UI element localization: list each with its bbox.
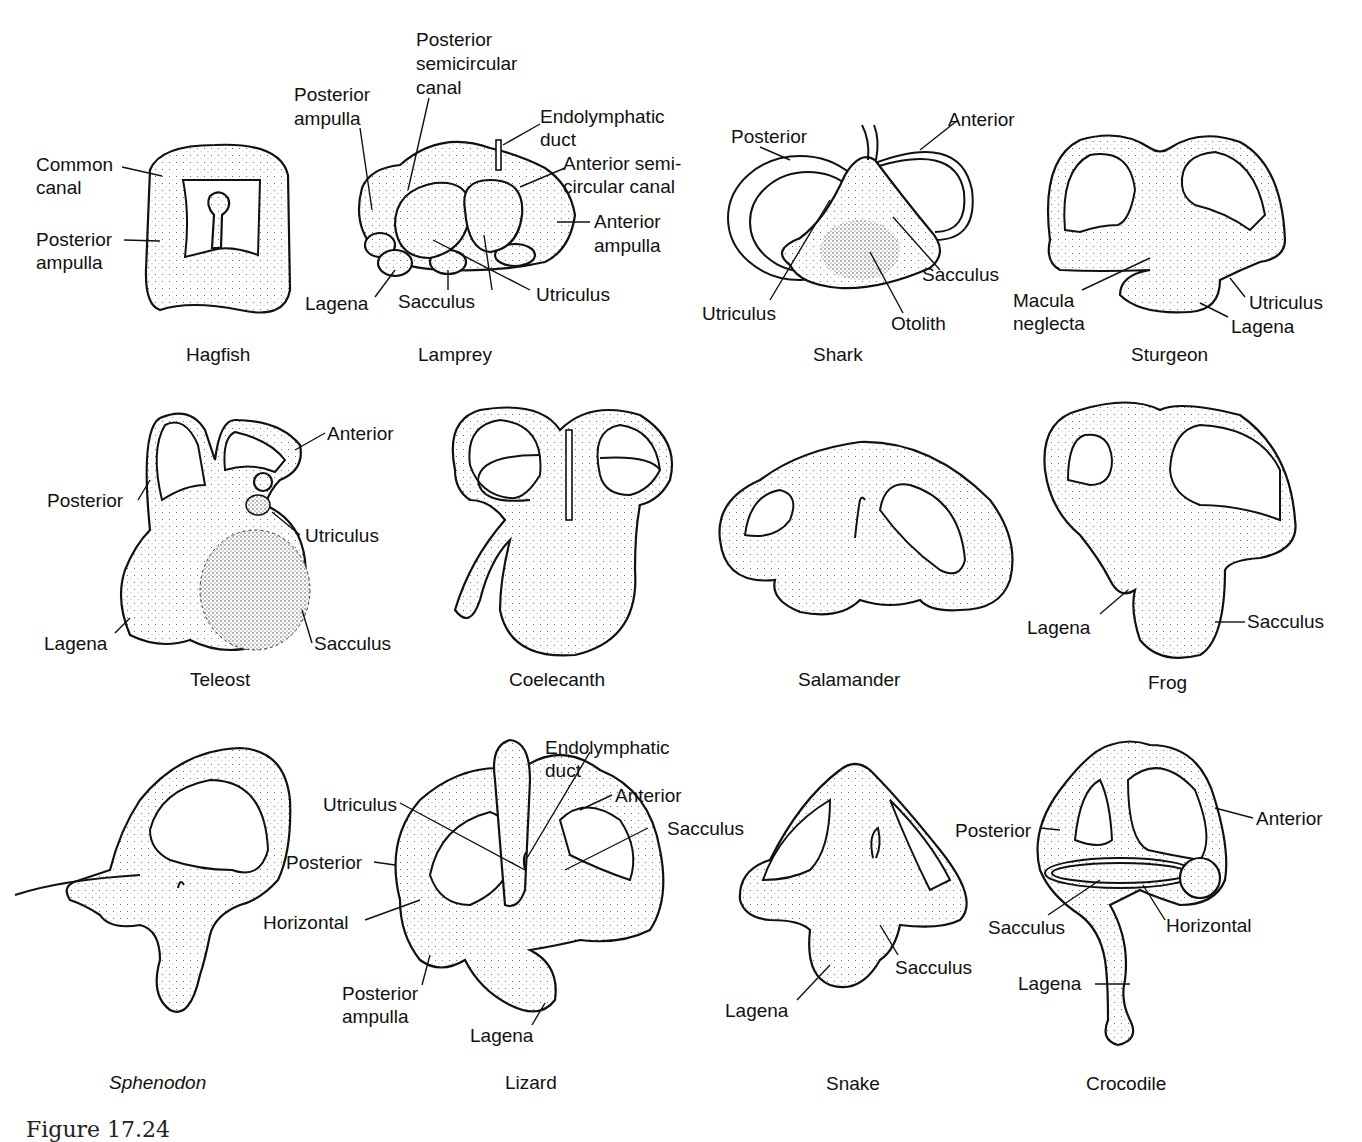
- lamprey-label-utriculus: Utriculus: [536, 284, 610, 306]
- teleost-label-posterior: Posterior: [47, 490, 123, 512]
- lamprey-label-lagena: Lagena: [305, 293, 368, 315]
- snake-label-sacculus: Sacculus: [895, 957, 972, 979]
- crocodile-label-lagena: Lagena: [1018, 973, 1081, 995]
- crocodile-inner-ear: [1038, 742, 1254, 1046]
- shark-label-otolith: Otolith: [891, 313, 946, 335]
- caption-snake: Snake: [826, 1073, 880, 1095]
- sturgeon-inner-ear: [1048, 136, 1285, 318]
- shark-label-anterior: Anterior: [948, 109, 1015, 131]
- frog-label-lagena: Lagena: [1027, 617, 1090, 639]
- figure-number: Figure 17.24: [26, 1117, 170, 1142]
- teleost-label-utriculus: Utriculus: [305, 525, 379, 547]
- caption-sphenodon: Sphenodon: [109, 1072, 206, 1094]
- lamprey-label-sacculus: Sacculus: [398, 291, 475, 313]
- lamprey-label-ed-2: duct: [540, 129, 576, 151]
- lizard-label-sacculus: Sacculus: [667, 818, 744, 840]
- salamander-inner-ear: [720, 442, 1013, 614]
- lizard-label-pa-1: Posterior: [342, 983, 418, 1005]
- hagfish-label-common-canal-2: canal: [36, 177, 81, 199]
- lizard-label-posterior: Posterior: [286, 852, 362, 874]
- lizard-label-pa-2: ampulla: [342, 1006, 409, 1028]
- caption-shark: Shark: [813, 344, 863, 366]
- lizard-label-horizontal: Horizontal: [263, 912, 349, 934]
- crocodile-label-sacculus: Sacculus: [988, 917, 1065, 939]
- shark-label-sacculus: Sacculus: [922, 264, 999, 286]
- lamprey-label-psc-1: Posterior: [416, 29, 492, 51]
- shark-label-utriculus: Utriculus: [702, 303, 776, 325]
- lizard-label-ed-2: duct: [545, 760, 581, 782]
- crocodile-label-horizontal: Horizontal: [1166, 915, 1252, 937]
- lamprey-label-asc-2: circular canal: [563, 176, 675, 198]
- caption-frog: Frog: [1148, 672, 1187, 694]
- hagfish-inner-ear: [122, 145, 290, 313]
- sturgeon-label-macula-1: Macula: [1013, 290, 1074, 312]
- lamprey-label-pa-1: Posterior: [294, 84, 370, 106]
- lizard-label-anterior: Anterior: [615, 785, 682, 807]
- caption-sturgeon: Sturgeon: [1131, 344, 1208, 366]
- caption-lamprey: Lamprey: [418, 344, 492, 366]
- lamprey-label-psc-3: canal: [416, 77, 461, 99]
- teleost-inner-ear: [115, 414, 325, 650]
- hagfish-label-posterior-ampulla-2: ampulla: [36, 252, 103, 274]
- snake-label-lagena: Lagena: [725, 1000, 788, 1022]
- lamprey-label-psc-2: semicircular: [416, 53, 517, 75]
- lizard-label-utriculus: Utriculus: [323, 794, 397, 816]
- hagfish-label-posterior-ampulla-1: Posterior: [36, 229, 112, 251]
- caption-coelecanth: Coelecanth: [509, 669, 605, 691]
- lizard-label-lagena: Lagena: [470, 1025, 533, 1047]
- hagfish-label-common-canal-1: Common: [36, 154, 113, 176]
- teleost-label-sacculus: Sacculus: [314, 633, 391, 655]
- teleost-label-anterior: Anterior: [327, 423, 394, 445]
- teleost-label-lagena: Lagena: [44, 633, 107, 655]
- caption-teleost: Teleost: [190, 669, 250, 691]
- caption-crocodile: Crocodile: [1086, 1073, 1166, 1095]
- sturgeon-label-lagena: Lagena: [1231, 316, 1294, 338]
- lizard-label-ed-1: Endolymphatic: [545, 737, 670, 759]
- caption-hagfish: Hagfish: [186, 344, 250, 366]
- coelecanth-inner-ear: [453, 408, 672, 656]
- lamprey-label-ed-1: Endolymphatic: [540, 106, 665, 128]
- caption-lizard: Lizard: [505, 1072, 557, 1094]
- crocodile-label-posterior: Posterior: [955, 820, 1031, 842]
- crocodile-label-anterior: Anterior: [1256, 808, 1323, 830]
- lamprey-label-aa-2: ampulla: [594, 235, 661, 257]
- lamprey-label-pa-2: ampulla: [294, 108, 361, 130]
- lamprey-label-aa-1: Anterior: [594, 211, 661, 233]
- frog-label-sacculus: Sacculus: [1247, 611, 1324, 633]
- sturgeon-label-macula-2: neglecta: [1013, 313, 1085, 335]
- sphenodon-inner-ear: [15, 748, 290, 1012]
- shark-label-posterior: Posterior: [731, 126, 807, 148]
- sturgeon-label-utriculus: Utriculus: [1249, 292, 1323, 314]
- lamprey-label-asc-1: Anterior semi-: [563, 153, 681, 175]
- caption-salamander: Salamander: [798, 669, 900, 691]
